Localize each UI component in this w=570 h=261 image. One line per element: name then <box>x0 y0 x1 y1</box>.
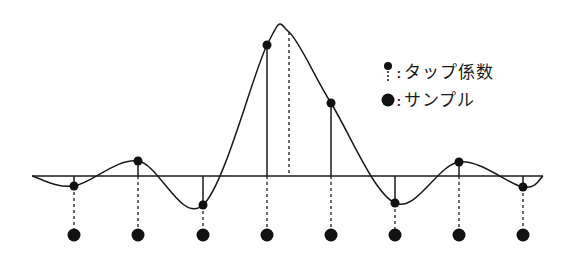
tap-dot <box>134 157 143 166</box>
sample-dot <box>132 229 145 242</box>
sample-connectors <box>74 176 523 235</box>
sample-dot <box>517 229 530 242</box>
sample-dot <box>197 229 210 242</box>
tap-dot <box>199 201 208 210</box>
sample-dots <box>68 229 530 242</box>
legend-separator: : <box>396 58 402 86</box>
tap-dot <box>327 99 336 108</box>
legend-item-sample: : サンプル <box>380 86 494 114</box>
legend-separator: : <box>396 86 402 114</box>
impulse-response-curve <box>32 24 543 209</box>
tap-dot <box>519 183 528 192</box>
legend-label-sample: サンプル <box>404 86 475 114</box>
legend-item-tap: : タップ係数 <box>380 58 494 86</box>
legend: : タップ係数 : サンプル <box>380 58 494 114</box>
legend-label-tap: タップ係数 <box>404 58 494 86</box>
sample-dot <box>68 229 81 242</box>
sinc-curve <box>32 24 543 209</box>
tap-dot <box>391 199 400 208</box>
sample-dot <box>389 229 402 242</box>
tap-coefficient-icon <box>380 59 396 85</box>
filter-diagram <box>0 0 570 261</box>
tap-dot <box>455 158 464 167</box>
sample-dot <box>325 229 338 242</box>
tap-dot <box>70 182 79 191</box>
sample-dot-icon <box>380 87 396 113</box>
sample-dot <box>453 229 466 242</box>
tap-dot <box>263 41 272 50</box>
sample-dot <box>261 229 274 242</box>
